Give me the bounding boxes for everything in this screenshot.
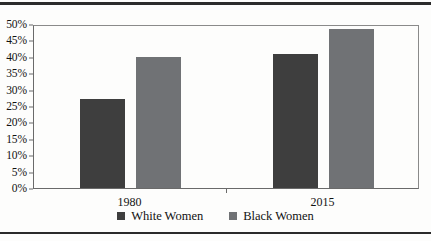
bar-black-women-2015: [329, 29, 374, 188]
legend-swatch-icon: [229, 212, 237, 220]
bar-black-women-1980: [136, 57, 181, 188]
x-axis-labels: 19802015: [33, 192, 419, 210]
y-axis-tick-label: 25%: [6, 101, 27, 113]
bar-white-women-2015: [273, 54, 318, 188]
y-axis-labels: 50%45%40%35%30%25%20%15%10%5%0%: [0, 25, 33, 189]
y-axis-tick-label: 15%: [6, 134, 27, 146]
y-axis-tick-label: 5%: [12, 167, 27, 179]
y-axis-tick-label: 50%: [6, 19, 27, 31]
y-axis-tick-label: 30%: [6, 85, 27, 97]
x-axis-tick-label: 1980: [118, 196, 142, 208]
legend-item-black-women[interactable]: Black Women: [229, 210, 314, 223]
chart-figure: 50%45%40%35%30%25%20%15%10%5%0% 19802015…: [0, 0, 431, 241]
y-axis-tick-label: 40%: [6, 52, 27, 64]
y-axis-tick-label: 0%: [12, 183, 27, 195]
y-axis-tick-label: 20%: [6, 118, 27, 130]
legend-label: White Women: [131, 210, 203, 223]
x-axis-tick-mark: [226, 189, 227, 193]
legend-label: Black Women: [243, 210, 314, 223]
plot-area: [33, 25, 419, 189]
y-axis-tick-label: 35%: [6, 68, 27, 80]
x-axis-tick-label: 2015: [311, 196, 335, 208]
chart-legend: White WomenBlack Women: [0, 210, 431, 223]
y-axis-tick-label: 45%: [6, 36, 27, 48]
legend-item-white-women[interactable]: White Women: [117, 210, 203, 223]
bar-white-women-1980: [80, 99, 125, 188]
y-axis-tick-label: 10%: [6, 150, 27, 162]
legend-swatch-icon: [117, 212, 125, 220]
top-divider-rule: [0, 2, 431, 5]
bottom-divider-rule: [0, 232, 431, 234]
